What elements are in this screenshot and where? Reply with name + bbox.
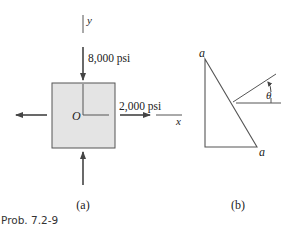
caption-a: (a) — [76, 198, 89, 212]
figure-b: a a θ (b) — [199, 46, 281, 212]
figure-a: y 8,000 psi O 2,000 psi x (a) — [16, 14, 182, 212]
x-axis-label: x — [175, 115, 181, 127]
diagram-canvas: y 8,000 psi O 2,000 psi x (a) a a θ — [0, 0, 299, 228]
origin-label: O — [72, 109, 81, 123]
horizontal-stress-label: 2,000 psi — [119, 100, 161, 113]
top-vertex-label: a — [199, 46, 205, 60]
angle-label: θ — [266, 89, 272, 101]
caption-b: (b) — [231, 198, 245, 212]
problem-label: Prob. 7.2-9 — [1, 214, 58, 226]
bottom-vertex-label: a — [259, 145, 265, 159]
y-axis-label: y — [86, 14, 92, 26]
vertical-stress-label: 8,000 psi — [88, 52, 130, 65]
